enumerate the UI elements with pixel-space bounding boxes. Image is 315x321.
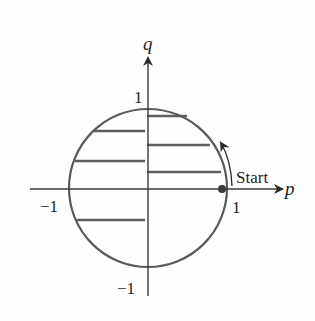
start-label: Start	[236, 168, 268, 187]
p-tick-1: 1	[232, 198, 241, 217]
p-tick-minus-1: −1	[40, 197, 58, 216]
q-tick-1: 1	[134, 88, 143, 107]
right-segments	[147, 116, 221, 172]
q-axis-label: q	[143, 33, 153, 54]
q-tick-minus-1: −1	[117, 279, 135, 298]
phase-diagram: q p 1 −1 −1 1 Start	[0, 0, 315, 321]
start-point	[218, 185, 226, 193]
left-segments	[75, 131, 145, 220]
p-axis-label: p	[283, 178, 295, 199]
